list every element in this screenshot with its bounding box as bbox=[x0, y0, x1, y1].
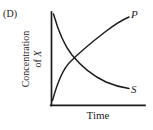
figure-panel-d: (D) Concentration of X P S Time bbox=[0, 0, 153, 130]
curve-label-p: P bbox=[131, 8, 138, 20]
x-axis-title: Time bbox=[51, 109, 145, 122]
curve-product-p bbox=[53, 17, 130, 101]
curve-label-s: S bbox=[131, 83, 137, 95]
curve-substrate-s bbox=[54, 14, 130, 89]
